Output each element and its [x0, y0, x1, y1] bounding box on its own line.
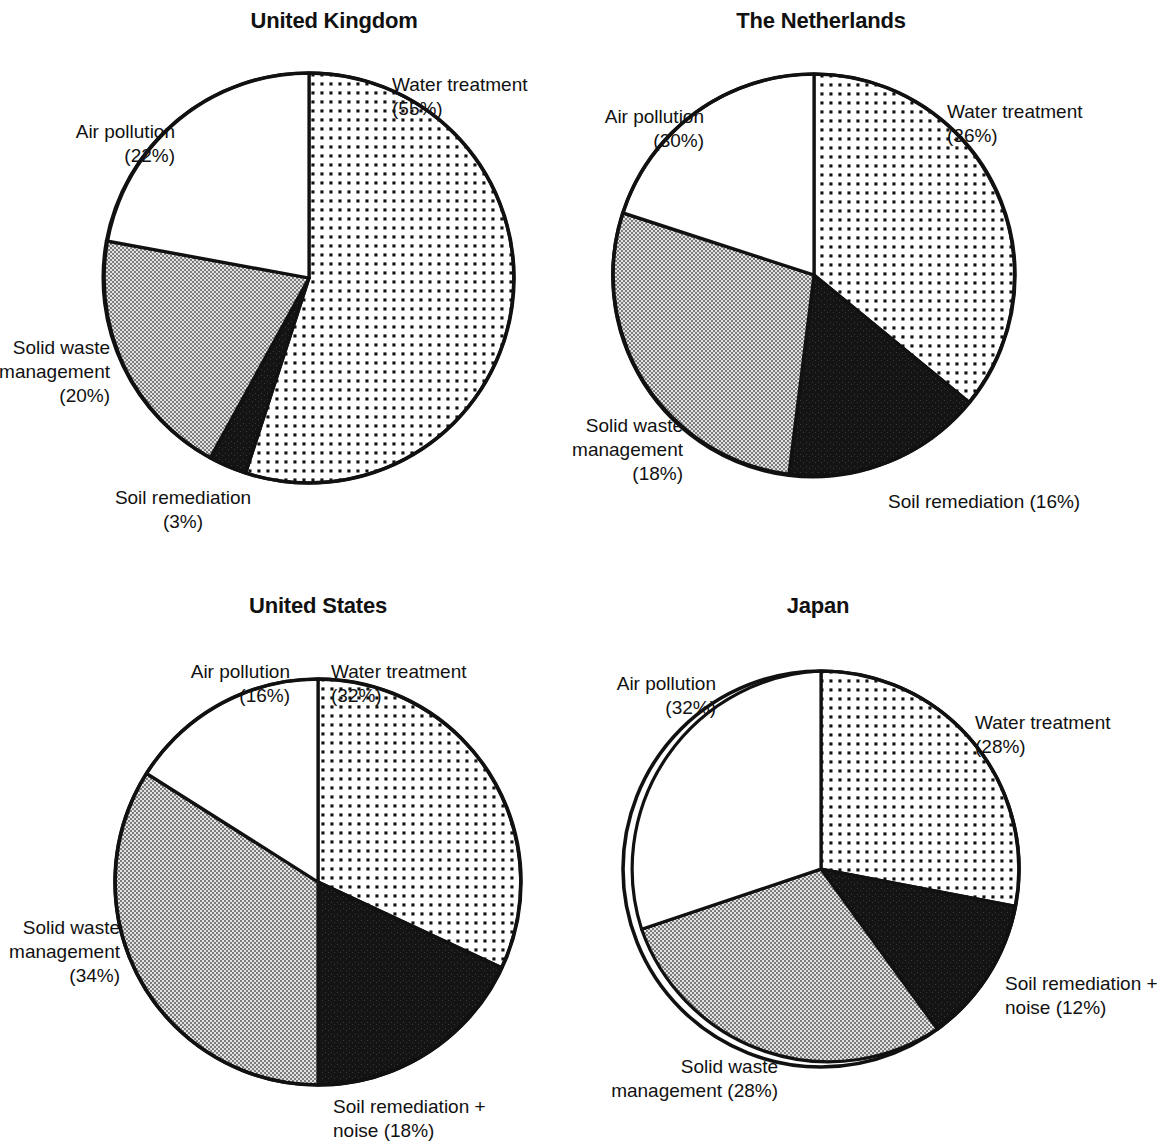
pie-label-jp-air-pollution: Air pollution (32%): [617, 672, 716, 720]
pie-label-uk-air-pollution: Air pollution (22%): [76, 120, 175, 168]
pie-label-jp-soil-remediation-noise: Soil remediation + noise (12%): [1005, 972, 1158, 1020]
pie-label-nl-water-treatment: Water treatment (36%): [947, 100, 1083, 148]
pie-chart-jp: [620, 668, 1022, 1070]
pie-label-uk-soil-remediation: Soil remediation (3%): [115, 486, 251, 534]
pie-label-uk-water-treatment: Water treatment (55%): [392, 73, 528, 121]
pie-label-jp-solid-waste-management: Solid waste management (28%): [611, 1055, 778, 1103]
pie-label-nl-air-pollution: Air pollution (30%): [605, 105, 704, 153]
page-title-uk: United Kingdom: [250, 8, 417, 34]
pie-label-nl-solid-waste-management: Solid waste management (18%): [572, 414, 683, 486]
page-title-us: United States: [249, 593, 387, 619]
pie-chart-us: [112, 676, 524, 1088]
pie-slice-water-treatment[interactable]: [821, 671, 1019, 906]
page-title-nl: The Netherlands: [736, 8, 905, 34]
pie-slice-air-pollution[interactable]: [106, 73, 309, 278]
page-title-jp: Japan: [787, 593, 850, 619]
pie-label-us-soil-remediation-noise: Soil remediation + noise (18%): [333, 1095, 486, 1143]
pie-label-us-solid-waste-management: Solid waste management (34%): [9, 916, 120, 988]
pie-label-uk-solid-waste-management: Solid waste management (20%): [0, 336, 110, 408]
pie-label-us-water-treatment: Water treatment (32%): [331, 660, 467, 708]
pie-label-nl-soil-remediation: Soil remediation (16%): [888, 490, 1080, 514]
pie-label-jp-water-treatment: Water treatment (28%): [975, 711, 1111, 759]
pie-label-us-air-pollution: Air pollution (16%): [191, 660, 290, 708]
